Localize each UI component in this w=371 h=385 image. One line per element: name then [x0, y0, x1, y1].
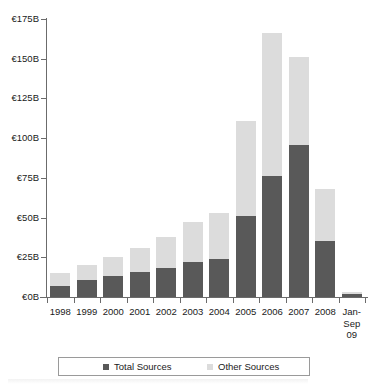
- bar-segment-other-sources: [156, 237, 176, 269]
- x-axis-label: 2008: [312, 306, 339, 318]
- bar-2002: [156, 237, 176, 297]
- x-axis-label: 2000: [100, 306, 127, 318]
- y-axis-label: €175B: [12, 14, 39, 24]
- bar-segment-other-sources: [50, 273, 70, 286]
- bar-segment-total-sources: [342, 294, 362, 297]
- legend-entry-total-sources: Total Sources: [103, 361, 172, 372]
- bar-2003: [183, 222, 203, 297]
- bar-2000: [103, 257, 123, 297]
- x-axis-line: [40, 297, 368, 298]
- bar-2008: [315, 189, 335, 297]
- bar-segment-other-sources: [315, 189, 335, 241]
- x-axis-tick: [312, 298, 313, 303]
- x-axis-label: 2005: [233, 306, 260, 318]
- y-axis-label: €50B: [17, 213, 39, 223]
- legend-entry-other-sources: Other Sources: [207, 361, 279, 372]
- x-axis-label: 1998: [47, 306, 74, 318]
- plot-area: [47, 19, 365, 297]
- x-axis-label: 1999: [74, 306, 101, 318]
- bar-1998: [50, 273, 70, 297]
- legend-swatch-other-sources-icon: [207, 364, 213, 370]
- x-axis-tick: [153, 298, 154, 303]
- y-axis-label: €75B: [17, 173, 39, 183]
- bar-1999: [77, 265, 97, 297]
- bar-segment-other-sources: [209, 213, 229, 259]
- bar-segment-other-sources: [183, 222, 203, 262]
- bar-2006: [262, 33, 282, 297]
- x-axis-tick: [74, 298, 75, 303]
- bar-segment-other-sources: [289, 57, 309, 144]
- x-axis-label: 2006: [259, 306, 286, 318]
- bar-segment-total-sources: [289, 145, 309, 298]
- bar-2005: [236, 121, 256, 297]
- legend-label-total-sources: Total Sources: [114, 361, 172, 372]
- cropped-caption-artifact: [8, 379, 308, 384]
- y-axis-label: €0B: [22, 292, 39, 302]
- x-axis-label: 2003: [180, 306, 207, 318]
- bar-segment-total-sources: [156, 268, 176, 297]
- y-axis-label: €150B: [12, 54, 39, 64]
- bar-segment-total-sources: [262, 176, 282, 297]
- legend-label-other-sources: Other Sources: [218, 361, 279, 372]
- bar-2007: [289, 57, 309, 297]
- chart-legend: Total Sources Other Sources: [58, 357, 310, 376]
- x-axis-tick: [259, 298, 260, 303]
- bar-segment-total-sources: [236, 216, 256, 297]
- bar-segment-total-sources: [130, 272, 150, 297]
- x-axis-label: 2001: [127, 306, 154, 318]
- bar-segment-other-sources: [130, 248, 150, 272]
- stacked-bar-chart: €0B€25B€50B€75B€100B€125B€150B€175B 1998…: [0, 0, 371, 385]
- y-axis-label: €25B: [17, 252, 39, 262]
- x-axis-tick: [286, 298, 287, 303]
- x-axis-tick: [365, 298, 366, 303]
- bar-segment-total-sources: [50, 286, 70, 297]
- x-axis-tick: [100, 298, 101, 303]
- x-axis-label: 2007: [286, 306, 313, 318]
- y-axis-label: €100B: [12, 133, 39, 143]
- x-axis-tick: [206, 298, 207, 303]
- bar-segment-total-sources: [183, 262, 203, 297]
- x-axis-label: 2002: [153, 306, 180, 318]
- legend-swatch-total-sources-icon: [103, 364, 109, 370]
- bar-jan-sep-09: [342, 292, 362, 297]
- x-axis-tick: [180, 298, 181, 303]
- bar-segment-total-sources: [77, 280, 97, 297]
- bar-segment-other-sources: [77, 265, 97, 279]
- bar-segment-other-sources: [262, 33, 282, 176]
- bar-segment-total-sources: [103, 276, 123, 297]
- x-axis-tick: [47, 298, 48, 303]
- bar-segment-total-sources: [209, 259, 229, 297]
- x-axis-label: Jan- Sep 09: [339, 306, 366, 341]
- bar-2004: [209, 213, 229, 297]
- bar-segment-other-sources: [236, 121, 256, 216]
- x-axis-tick: [339, 298, 340, 303]
- x-axis-tick: [127, 298, 128, 303]
- bar-segment-other-sources: [103, 257, 123, 276]
- x-axis-label: 2004: [206, 306, 233, 318]
- bar-2001: [130, 248, 150, 297]
- bar-segment-total-sources: [315, 241, 335, 297]
- y-axis-label: €125B: [12, 93, 39, 103]
- x-axis-tick: [233, 298, 234, 303]
